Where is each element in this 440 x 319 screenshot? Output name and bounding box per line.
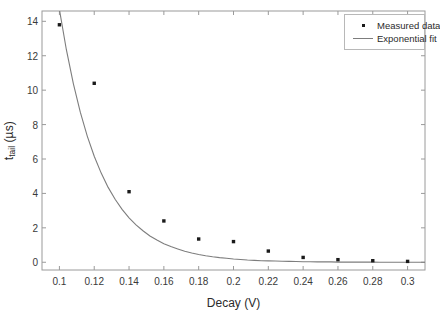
legend-label-measured-data: Measured data (375, 20, 440, 31)
x-tick-label: 0.22 (259, 276, 278, 287)
legend-line-icon (351, 38, 375, 39)
x-tick-label: 0.18 (189, 276, 208, 287)
x-axis-label: Decay (V) (42, 293, 425, 311)
x-tick-label: 0.2 (227, 276, 241, 287)
x-tick-label: 0.24 (293, 276, 312, 287)
x-tick-label: 0.3 (401, 276, 415, 287)
legend-item-exponential-fit: Exponential fit (351, 32, 417, 45)
legend-label-exponential-fit: Exponential fit (375, 33, 437, 44)
chart-legend: Measured data Exponential fit (344, 14, 425, 50)
x-tick-label: 0.28 (363, 276, 382, 287)
legend-marker-icon (351, 24, 375, 27)
x-tick-label: 0.16 (154, 276, 173, 287)
legend-item-measured-data: Measured data (351, 19, 417, 32)
x-tick-label: 0.1 (52, 276, 66, 287)
x-tick-label: 0.26 (328, 276, 347, 287)
x-tick-label: 0.14 (119, 276, 138, 287)
x-tick-label: 0.12 (84, 276, 103, 287)
